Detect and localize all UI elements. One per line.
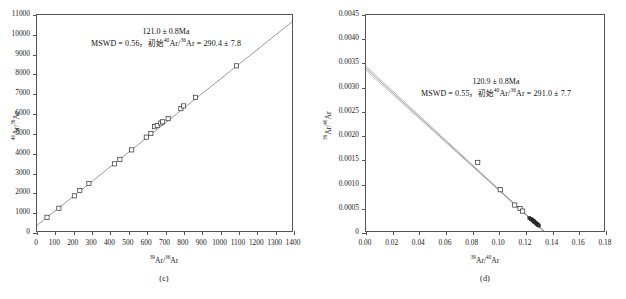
data-point-d-9	[531, 219, 534, 222]
panel-c: 0100020003000400050006000700080009000100…	[0, 0, 313, 299]
y-tick-d-8	[362, 39, 366, 40]
data-point-d-16	[536, 223, 539, 226]
y-tick-label-d-9: 0.0045	[313, 10, 359, 17]
x-axis-title-d-text2: Ar	[491, 256, 499, 265]
data-point-c-9	[149, 132, 153, 136]
data-point-c-7	[130, 148, 134, 152]
y-tick-c-11	[33, 15, 37, 16]
x-tick-c-4	[110, 231, 111, 235]
annotation-c-mswd-prefix: MSWD = 0.56，	[91, 39, 148, 48]
y-tick-c-1	[33, 213, 37, 214]
x-tick-d-6	[526, 231, 527, 235]
data-point-d-5	[528, 217, 531, 220]
data-point-c-2	[72, 194, 76, 198]
y-axis-title-d-text: Ar/	[324, 125, 333, 135]
x-tick-d-7	[553, 231, 554, 235]
x-axis-title-c: 39Ar/36Ar	[150, 256, 178, 265]
x-tick-label-c-6: 600	[141, 239, 152, 246]
y-tick-c-3	[33, 174, 37, 175]
y-tick-label-d-0: 0	[313, 228, 359, 235]
data-point-c-8	[144, 135, 148, 139]
annotation-c-mswd: MSWD = 0.56，初始40Ar/36Ar = 290.4 ± 7.8	[44, 38, 288, 50]
x-axis-title-d: 39Ar/40Ar	[471, 256, 499, 265]
annotation-d-age: 120.9 ± 0.8Ma	[381, 76, 611, 88]
data-point-d-10	[532, 220, 535, 223]
data-point-d-17	[537, 224, 540, 227]
data-point-d-8	[531, 219, 534, 222]
x-tick-label-d-6: 0.12	[519, 239, 532, 246]
y-tick-label-d-8: 0.0040	[313, 35, 359, 42]
y-tick-d-3	[362, 160, 366, 161]
panel-d: 00.00050.00100.00150.00200.00250.00300.0…	[313, 0, 626, 299]
x-tick-label-d-2: 0.04	[412, 239, 425, 246]
y-tick-d-1	[362, 209, 366, 210]
data-point-c-17	[193, 95, 197, 99]
annotation-c-age: 121.0 ± 0.8Ma	[44, 26, 288, 38]
data-point-c-10	[152, 125, 156, 129]
x-tick-label-c-2: 200	[67, 239, 78, 246]
y-tick-label-c-4: 4000	[0, 149, 30, 156]
x-tick-label-c-13: 1300	[267, 239, 282, 246]
data-point-d-15	[535, 222, 538, 225]
data-point-d-3	[518, 206, 522, 210]
data-point-c-3	[78, 188, 82, 192]
y-tick-c-4	[33, 154, 37, 155]
x-tick-label-c-1: 100	[49, 239, 60, 246]
y-tick-label-c-8: 8000	[0, 70, 30, 77]
x-tick-label-d-8: 0.16	[572, 239, 585, 246]
x-tick-d-4	[473, 231, 474, 235]
y-tick-label-d-7: 0.0035	[313, 59, 359, 66]
data-point-d-14	[535, 222, 538, 225]
data-point-c-4	[87, 181, 91, 185]
y-tick-label-c-2: 2000	[0, 189, 30, 196]
data-layer-d	[366, 15, 604, 231]
x-tick-c-5	[129, 231, 130, 235]
x-tick-label-c-11: 1100	[231, 239, 246, 246]
x-tick-label-d-0: 0.00	[359, 239, 372, 246]
data-point-d-4	[521, 209, 525, 213]
x-tick-d-3	[446, 231, 447, 235]
y-tick-label-c-1: 1000	[0, 208, 30, 215]
x-tick-label-c-12: 1200	[249, 239, 264, 246]
y-tick-d-2	[362, 185, 366, 186]
x-tick-c-9	[202, 231, 203, 235]
x-tick-c-7	[166, 231, 167, 235]
data-point-d-12	[533, 221, 536, 224]
y-tick-label-c-7: 7000	[0, 90, 30, 97]
x-tick-label-c-10: 1000	[212, 239, 227, 246]
annotation-d-cjk-label: 初始	[478, 89, 494, 98]
data-point-d-1	[498, 188, 502, 192]
y-axis-title-c-sup: 40	[10, 135, 16, 140]
x-tick-label-d-1: 0.02	[385, 239, 398, 246]
y-axis-title-c-text: Ar/	[12, 125, 21, 135]
x-tick-c-2	[74, 231, 75, 235]
panel-caption-d: (d)	[480, 274, 490, 283]
y-tick-c-7	[33, 94, 37, 95]
data-point-c-11	[155, 123, 159, 127]
y-axis-title-c-sup2: 36	[10, 120, 16, 125]
x-tick-label-d-3: 0.06	[439, 239, 452, 246]
data-point-d-0	[476, 160, 480, 164]
y-tick-label-c-9: 9000	[0, 50, 30, 57]
data-point-c-0	[45, 215, 49, 219]
figure-root: 0100020003000400050006000700080009000100…	[0, 0, 626, 299]
y-tick-c-5	[33, 134, 37, 135]
y-tick-label-c-11: 11000	[0, 10, 30, 17]
y-tick-c-10	[33, 35, 37, 36]
y-axis-title-d-sup: 36	[322, 135, 328, 140]
annotation-c: 121.0 ± 0.8Ma MSWD = 0.56，初始40Ar/36Ar = …	[44, 26, 288, 49]
data-point-c-18	[234, 64, 238, 68]
x-tick-label-c-5: 500	[122, 239, 133, 246]
y-tick-d-7	[362, 63, 366, 64]
x-tick-c-3	[92, 231, 93, 235]
x-tick-c-1	[55, 231, 56, 235]
x-tick-d-9	[606, 231, 607, 235]
x-tick-label-c-7: 700	[159, 239, 170, 246]
x-tick-d-8	[579, 231, 580, 235]
x-tick-label-c-3: 300	[86, 239, 97, 246]
x-axis-title-c-text: Ar/	[155, 256, 165, 265]
y-tick-c-9	[33, 55, 37, 56]
y-tick-c-8	[33, 74, 37, 75]
y-tick-label-c-3: 3000	[0, 169, 30, 176]
y-tick-label-c-0: 0	[0, 228, 30, 235]
